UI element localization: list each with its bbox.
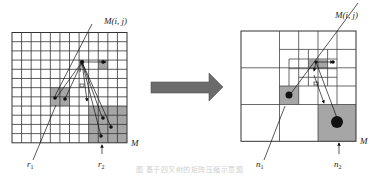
right-cell-label: M(i, j) — [334, 10, 358, 20]
left-matrix-label: M — [130, 138, 139, 148]
transform-arrow-icon — [151, 73, 223, 101]
diagram-canvas: M(i, j) M r1 r2 — [0, 0, 379, 178]
left-cell-label: M(i, j) — [103, 16, 127, 26]
right-matrix-label: M — [359, 136, 368, 146]
figure-caption: 图 基于四叉树的矩阵压缩示意图 — [0, 164, 379, 174]
